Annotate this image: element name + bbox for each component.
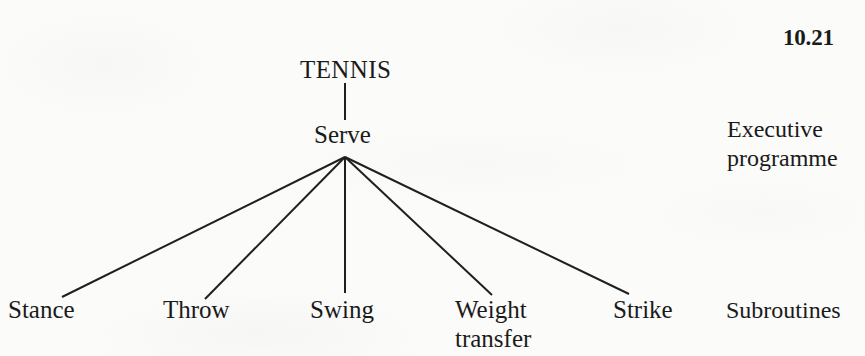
edge-serve-strike <box>345 157 629 294</box>
edge-serve-weight <box>345 157 492 295</box>
margin-note-subroutines: Subroutines <box>726 296 841 325</box>
node-serve: Serve <box>314 121 371 148</box>
margin-note-executive-line2: programme <box>727 144 838 173</box>
node-subroutine-throw: Throw <box>163 296 230 325</box>
node-subroutine-stance: Stance <box>8 296 75 325</box>
node-subroutine-weight-transfer-line1: Weight <box>455 296 531 325</box>
node-subroutine-weight-transfer: Weight transfer <box>455 296 531 353</box>
edge-serve-throw <box>205 157 345 299</box>
edge-serve-stance <box>62 157 345 297</box>
node-tennis: TENNIS <box>300 56 391 83</box>
node-subroutine-swing: Swing <box>310 296 374 325</box>
page-number: 10.21 <box>783 25 834 51</box>
margin-note-executive-programme: Executive programme <box>727 115 838 174</box>
node-subroutine-strike: Strike <box>613 296 673 325</box>
margin-note-executive-line1: Executive <box>727 115 838 144</box>
node-subroutine-weight-transfer-line2: transfer <box>455 325 531 354</box>
scanned-page: TENNIS Serve Stance Throw Swing Weight t… <box>0 0 865 356</box>
